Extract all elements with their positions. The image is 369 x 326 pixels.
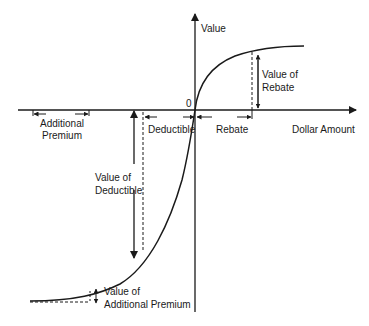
value-of-rebate-label-2: Rebate	[262, 82, 294, 94]
value-of-deductible-label-1: Value of	[95, 172, 131, 184]
deductible-label: Deductible	[148, 124, 195, 136]
value-function-diagram	[0, 0, 369, 326]
y-axis-label: Value	[201, 23, 226, 35]
additional-premium-label-1: Additional	[36, 118, 88, 130]
value-of-rebate-label-1: Value of	[262, 69, 298, 81]
rebate-label: Rebate	[216, 124, 248, 136]
value-of-additional-premium-label-2: Additional Premium	[104, 299, 191, 311]
value-of-additional-premium-label-1: Value of	[104, 286, 140, 298]
x-axis-label: Dollar Amount	[292, 124, 355, 136]
additional-premium-label-2: Premium	[36, 130, 88, 142]
origin-label: 0	[186, 98, 192, 110]
value-of-deductible-label-2: Deductible	[95, 185, 142, 197]
